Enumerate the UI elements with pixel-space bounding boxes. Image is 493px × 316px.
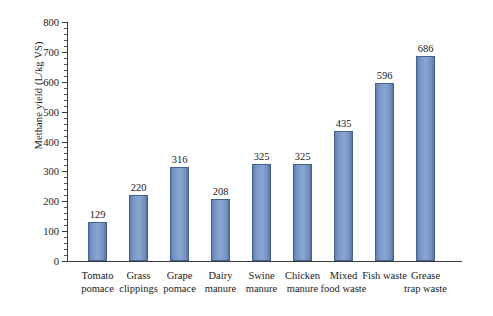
- bar-value-label: 686: [418, 43, 434, 54]
- plot-area: 0100200300400500600700800 12922031620832…: [67, 22, 462, 261]
- y-tick-minor: [64, 243, 67, 244]
- y-tick-minor: [64, 94, 67, 95]
- y-tick-major: [62, 261, 67, 262]
- y-tick-minor: [64, 225, 67, 226]
- y-tick-minor: [64, 183, 67, 184]
- bar: [375, 83, 394, 261]
- y-tick-label: 300: [43, 166, 59, 177]
- y-tick-minor: [64, 147, 67, 148]
- y-tick-major: [62, 112, 67, 113]
- y-tick-label: 800: [43, 17, 59, 28]
- x-axis-label-line: food waste: [313, 282, 375, 295]
- x-axis-label: Greasetrap waste: [395, 269, 457, 295]
- y-tick-major: [62, 231, 67, 232]
- y-tick-minor: [64, 207, 67, 208]
- bar: [170, 167, 189, 261]
- y-tick-label: 500: [43, 106, 59, 117]
- bar-value-label: 220: [131, 182, 147, 193]
- y-tick-minor: [64, 40, 67, 41]
- y-tick-minor: [64, 249, 67, 250]
- bar-value-label: 325: [254, 151, 270, 162]
- y-tick-minor: [64, 136, 67, 137]
- y-tick-label: 200: [43, 196, 59, 207]
- bar: [88, 222, 107, 261]
- bar-slot: 596: [364, 22, 405, 261]
- bar-slot: 435: [323, 22, 364, 261]
- y-tick-major: [62, 22, 67, 23]
- chart-figure: Methane yield (L/kg VS) 0100200300400500…: [0, 0, 493, 316]
- y-tick-major: [62, 142, 67, 143]
- x-axis-line: [67, 261, 462, 262]
- y-tick-label: 0: [54, 256, 59, 267]
- y-axis-line: [67, 22, 68, 261]
- y-tick-minor: [64, 64, 67, 65]
- bar-value-label: 316: [172, 154, 188, 165]
- y-tick-major: [62, 82, 67, 83]
- bar: [252, 164, 271, 261]
- y-tick-major: [62, 201, 67, 202]
- y-tick-minor: [64, 28, 67, 29]
- bar-slot: 686: [405, 22, 446, 261]
- bar: [211, 199, 230, 261]
- bar: [334, 131, 353, 261]
- bar: [129, 195, 148, 261]
- bar-slot: 208: [200, 22, 241, 261]
- bar: [293, 164, 312, 261]
- y-tick-minor: [64, 34, 67, 35]
- y-tick-minor: [64, 118, 67, 119]
- x-axis-label-line: Grease: [395, 269, 457, 282]
- y-tick-minor: [64, 219, 67, 220]
- y-tick-minor: [64, 237, 67, 238]
- y-tick-major: [62, 52, 67, 53]
- bar-slot: 316: [159, 22, 200, 261]
- y-axis-title: Methane yield (L/kg VS): [33, 0, 44, 196]
- bar: [416, 56, 435, 261]
- y-tick-minor: [64, 177, 67, 178]
- bar-value-label: 129: [90, 209, 106, 220]
- y-tick-minor: [64, 153, 67, 154]
- y-tick-minor: [64, 76, 67, 77]
- y-tick-minor: [64, 165, 67, 166]
- y-tick-minor: [64, 88, 67, 89]
- y-tick-minor: [64, 106, 67, 107]
- bar-value-label: 208: [213, 186, 229, 197]
- x-axis-label-line: trap waste: [395, 282, 457, 295]
- y-tick-label: 700: [43, 46, 59, 57]
- y-tick-minor: [64, 255, 67, 256]
- bar-value-label: 596: [377, 70, 393, 81]
- y-tick-label: 400: [43, 136, 59, 147]
- bar-value-label: 325: [295, 151, 311, 162]
- y-tick-minor: [64, 124, 67, 125]
- y-tick-minor: [64, 130, 67, 131]
- bar-slot: 325: [241, 22, 282, 261]
- y-tick-major: [62, 171, 67, 172]
- y-tick-minor: [64, 70, 67, 71]
- y-tick-minor: [64, 195, 67, 196]
- y-tick-minor: [64, 159, 67, 160]
- bar-value-label: 435: [336, 118, 352, 129]
- y-tick-label: 600: [43, 76, 59, 87]
- y-tick-minor: [64, 213, 67, 214]
- bar-slot: 129: [77, 22, 118, 261]
- y-tick-minor: [64, 46, 67, 47]
- y-tick-minor: [64, 58, 67, 59]
- y-tick-minor: [64, 189, 67, 190]
- y-tick-label: 100: [43, 226, 59, 237]
- bar-slot: 325: [282, 22, 323, 261]
- bar-slot: 220: [118, 22, 159, 261]
- y-tick-minor: [64, 100, 67, 101]
